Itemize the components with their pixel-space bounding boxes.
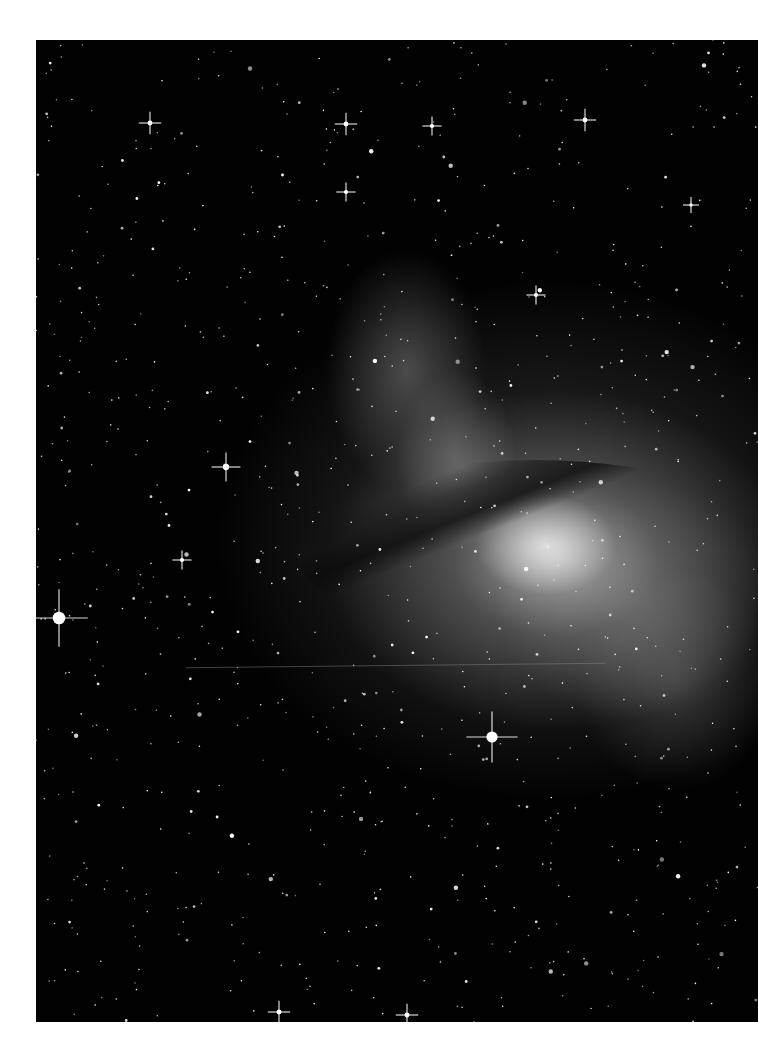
bright-star xyxy=(422,116,441,135)
star xyxy=(661,812,663,814)
star xyxy=(510,384,513,387)
star xyxy=(614,784,616,786)
star xyxy=(611,971,613,973)
star xyxy=(391,365,393,367)
star xyxy=(528,675,530,677)
star xyxy=(272,644,274,646)
star xyxy=(697,923,699,925)
star xyxy=(216,816,219,819)
star xyxy=(277,156,279,158)
star xyxy=(201,903,203,905)
star xyxy=(262,759,264,761)
star xyxy=(222,648,224,650)
star xyxy=(377,139,379,141)
star xyxy=(664,396,666,398)
star xyxy=(456,278,458,280)
star xyxy=(306,977,308,979)
star xyxy=(651,410,653,412)
star xyxy=(633,931,635,933)
star xyxy=(550,817,552,819)
star xyxy=(407,599,409,601)
star xyxy=(376,925,378,927)
star xyxy=(707,356,709,358)
star xyxy=(343,787,345,789)
star xyxy=(199,746,201,748)
star xyxy=(675,713,677,715)
star xyxy=(319,884,321,886)
star xyxy=(49,323,51,325)
star xyxy=(316,573,318,575)
star xyxy=(304,282,306,284)
star xyxy=(690,365,694,369)
star xyxy=(306,989,308,991)
star xyxy=(323,844,325,846)
star xyxy=(745,208,747,210)
star xyxy=(274,236,276,238)
star xyxy=(646,355,648,357)
star xyxy=(78,287,81,290)
star xyxy=(285,894,288,897)
star xyxy=(712,40,714,41)
star xyxy=(334,129,336,131)
star xyxy=(247,717,249,719)
star xyxy=(269,877,273,881)
star xyxy=(273,874,275,876)
star xyxy=(450,754,452,756)
star xyxy=(435,240,437,242)
star xyxy=(715,374,717,376)
star xyxy=(737,71,739,73)
star xyxy=(419,81,421,83)
star xyxy=(252,640,254,642)
star xyxy=(578,449,580,451)
star xyxy=(708,958,710,960)
star xyxy=(554,377,556,379)
star xyxy=(616,408,618,410)
star xyxy=(571,463,573,465)
star xyxy=(497,847,500,850)
star xyxy=(77,971,79,973)
star xyxy=(514,172,516,174)
star xyxy=(514,941,516,943)
star xyxy=(81,312,83,314)
star xyxy=(408,620,410,622)
star xyxy=(384,306,386,308)
star xyxy=(311,811,313,813)
star xyxy=(620,360,623,363)
star xyxy=(405,787,407,789)
star xyxy=(247,874,249,876)
star xyxy=(97,262,99,264)
star xyxy=(657,956,659,958)
star xyxy=(620,316,622,318)
star xyxy=(249,440,252,443)
star xyxy=(501,997,503,999)
star xyxy=(526,512,528,514)
star xyxy=(275,547,277,549)
star-field xyxy=(36,40,758,1022)
star xyxy=(379,548,382,551)
star xyxy=(433,658,435,660)
star xyxy=(132,597,135,600)
star xyxy=(521,511,523,513)
star xyxy=(416,84,418,86)
star xyxy=(118,569,120,571)
star xyxy=(126,890,128,892)
star xyxy=(150,743,152,745)
galaxy-photograph xyxy=(36,40,758,1022)
star xyxy=(585,423,587,425)
star xyxy=(642,265,644,267)
star xyxy=(559,458,561,460)
star xyxy=(418,145,420,147)
star xyxy=(648,299,650,301)
star xyxy=(353,733,355,735)
star xyxy=(736,866,739,869)
star xyxy=(661,206,663,208)
star xyxy=(338,584,340,586)
star xyxy=(735,920,737,922)
star xyxy=(698,379,700,381)
star xyxy=(646,379,648,381)
star xyxy=(380,319,382,321)
star xyxy=(356,544,359,547)
star xyxy=(289,181,291,183)
star xyxy=(535,427,537,429)
star xyxy=(286,113,288,115)
